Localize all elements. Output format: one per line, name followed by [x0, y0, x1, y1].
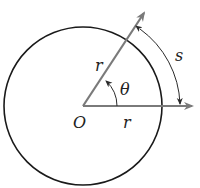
radian-diagram: r θ s O r: [0, 0, 200, 188]
radius-horizontal-label: r: [123, 113, 132, 132]
arc-length-label: s: [175, 46, 183, 65]
radius-diagonal-label: r: [95, 56, 104, 75]
origin-label: O: [73, 113, 86, 132]
arc-length-arrow-icon: [140, 29, 180, 104]
angle-theta-label: θ: [120, 80, 130, 99]
angle-arrow-icon: [106, 81, 117, 106]
